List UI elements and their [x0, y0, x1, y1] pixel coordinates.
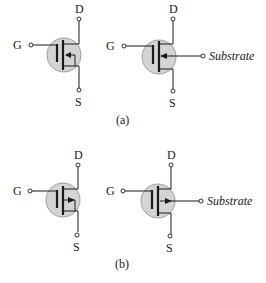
drain-label: D: [167, 148, 176, 162]
gate-terminal: [28, 189, 32, 193]
gate-label: G: [13, 184, 22, 198]
panel-a-symbol-left: G D S: [13, 2, 84, 109]
drain-label: D: [74, 148, 83, 162]
source-label: S: [73, 240, 80, 254]
gate-terminal: [121, 189, 125, 193]
gate-terminal: [29, 43, 33, 47]
gate-terminal: [122, 44, 126, 48]
source-terminal: [75, 233, 79, 237]
substrate-label: Substrate: [207, 194, 253, 208]
panel-b-symbol-right: G D Substrate S: [106, 148, 253, 255]
drain-label: D: [169, 2, 178, 16]
panel-a-symbol-right: G D Substrate S: [106, 2, 255, 110]
panel-b-symbol-left: G D S: [13, 148, 83, 254]
drain-terminal: [77, 17, 81, 21]
gate-label: G: [13, 38, 22, 52]
source-label: S: [166, 241, 173, 255]
drain-terminal: [171, 17, 175, 21]
drain-terminal: [169, 163, 173, 167]
gate-label: G: [106, 39, 115, 53]
drain-terminal: [76, 163, 80, 167]
panel-a-label: (a): [116, 113, 129, 127]
mosfet-symbols-figure: G D S G D Substrate S (a): [0, 0, 266, 283]
panel-b-label: (b): [115, 257, 129, 271]
source-label: S: [169, 96, 176, 110]
drain-label: D: [75, 2, 84, 16]
source-terminal: [171, 89, 175, 93]
source-label: S: [75, 95, 82, 109]
gate-label: G: [106, 184, 115, 198]
substrate-terminal: [199, 199, 203, 203]
substrate-terminal: [201, 54, 205, 58]
source-terminal: [168, 234, 172, 238]
source-terminal: [77, 88, 81, 92]
substrate-label: Substrate: [209, 49, 255, 63]
